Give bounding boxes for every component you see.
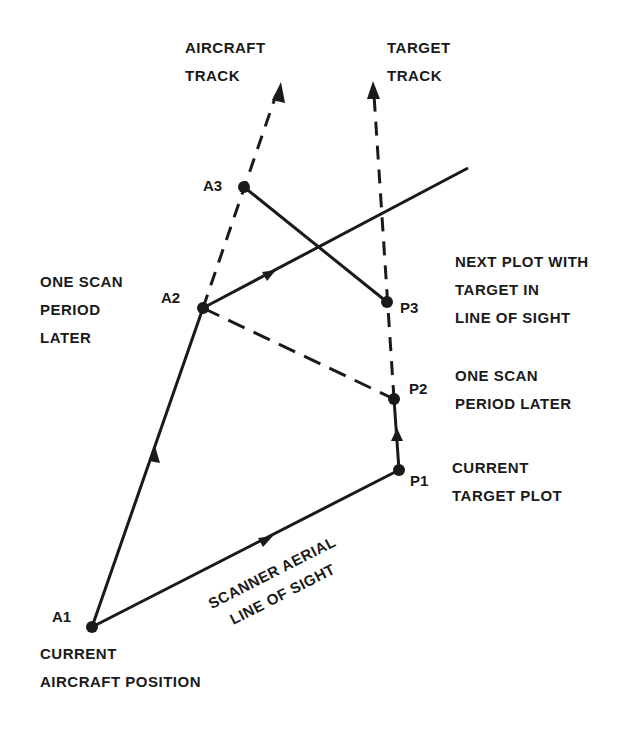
label-a1: A1 <box>52 608 71 625</box>
one-scan-right-line2: PERIOD LATER <box>455 390 572 418</box>
label-a3: A3 <box>203 177 222 194</box>
one-scan-left-line1: ONE SCAN <box>40 268 123 296</box>
next-plot-line3: LINE OF SIGHT <box>455 304 589 332</box>
next-plot-label: NEXT PLOT WITH TARGET IN LINE OF SIGHT <box>455 248 589 332</box>
line-a2-p2-dashed <box>203 308 394 399</box>
aircraft-track-arrow-icon <box>272 82 285 103</box>
los-direction-arrow-icon <box>262 270 276 281</box>
current-target-label: CURRENT TARGET PLOT <box>452 454 562 510</box>
current-aircraft-line2: AIRCRAFT POSITION <box>40 668 201 696</box>
current-target-line2: TARGET PLOT <box>452 482 562 510</box>
aircraft-track-line2: TRACK <box>185 62 266 90</box>
target-track-line1: TARGET <box>387 34 451 62</box>
scanner-direction-arrow-icon <box>258 536 273 547</box>
aircraft-track-line1: AIRCRAFT <box>185 34 266 62</box>
point-a3 <box>238 181 250 193</box>
point-p3 <box>381 296 393 308</box>
target-track-arrow-icon <box>367 81 380 99</box>
point-p2 <box>388 393 400 405</box>
label-p3: P3 <box>400 299 418 316</box>
current-target-line1: CURRENT <box>452 454 562 482</box>
target-track-line2: TRACK <box>387 62 451 90</box>
next-plot-line1: NEXT PLOT WITH <box>455 248 589 276</box>
one-scan-right-line1: ONE SCAN <box>455 362 572 390</box>
one-scan-left-line2: PERIOD <box>40 296 123 324</box>
current-aircraft-label: CURRENT AIRCRAFT POSITION <box>40 640 201 696</box>
label-p1: P1 <box>410 472 428 489</box>
point-p1 <box>393 464 405 476</box>
current-aircraft-line1: CURRENT <box>40 640 201 668</box>
aircraft-track-label: AIRCRAFT TRACK <box>185 34 266 90</box>
target-direction-arrow-icon <box>391 428 403 441</box>
target-track-label: TARGET TRACK <box>387 34 451 90</box>
line-a3-p3 <box>244 187 387 302</box>
label-a2: A2 <box>161 289 180 306</box>
label-p2: P2 <box>409 380 427 397</box>
point-a2 <box>197 302 209 314</box>
one-scan-left-label: ONE SCAN PERIOD LATER <box>40 268 123 352</box>
one-scan-left-line3: LATER <box>40 324 123 352</box>
point-a1 <box>86 621 98 633</box>
one-scan-right-label: ONE SCAN PERIOD LATER <box>455 362 572 418</box>
next-plot-line2: TARGET IN <box>455 276 589 304</box>
target-track-dashed <box>374 95 394 399</box>
